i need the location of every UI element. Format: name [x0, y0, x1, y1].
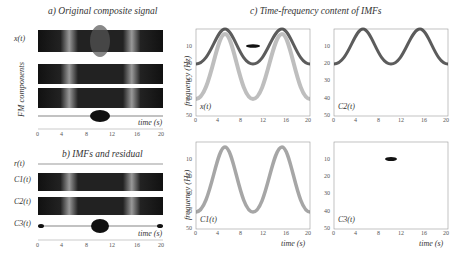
panel-a-signals [38, 20, 168, 120]
c2-label: C2(t) [14, 197, 31, 206]
tf-label-c3: C3(t) [338, 215, 355, 224]
panel-a-title: a) Original composite signal [48, 6, 158, 16]
panel-c-title: c) Time-frequency content of IMFs [250, 6, 382, 16]
c1-label: C1(t) [14, 175, 31, 184]
x-signal-label: x(t) [14, 34, 25, 43]
panel-b-xticks: 0 4 8 12 16 20 [36, 242, 168, 250]
panel-b-signals [38, 160, 168, 240]
c3-label: C3(t) [14, 219, 31, 228]
residual-label: r(t) [14, 159, 25, 168]
tf-xticks-bl: 0 4 8 12 16 20 [194, 230, 314, 238]
tf-yticks-bl: 10 20 30 40 50 [186, 142, 196, 232]
tf-xticks-br: 0 4 8 12 16 20 [332, 230, 452, 238]
tf-label-x: x(t) [200, 102, 211, 111]
tf-label-c1: C1(t) [200, 215, 217, 224]
panel-a-xticks: 0 4 8 12 16 20 [36, 131, 168, 139]
tf-yticks-tl: 10 20 30 40 50 [186, 29, 196, 119]
tf-xticks-tr: 0 4 8 12 16 20 [332, 117, 452, 125]
tf-xlabel-br: time (s) [419, 239, 443, 248]
tf-yticks-br: 10 20 30 40 50 [324, 142, 334, 232]
panel-b-title: b) IMFs and residual [62, 149, 143, 159]
panel-a-time-label: time (s) [138, 118, 162, 127]
tf-plot-x [196, 29, 310, 117]
panel-b-time-label: time (s) [138, 229, 162, 238]
fm-components-label: FM components [16, 62, 26, 117]
tf-xticks-tl: 0 4 8 12 16 20 [194, 117, 314, 125]
tf-xlabel-bl: time (s) [281, 239, 305, 248]
tf-yticks-tr: 10 20 30 40 50 [324, 29, 334, 119]
tf-label-c2: C2(t) [338, 102, 355, 111]
